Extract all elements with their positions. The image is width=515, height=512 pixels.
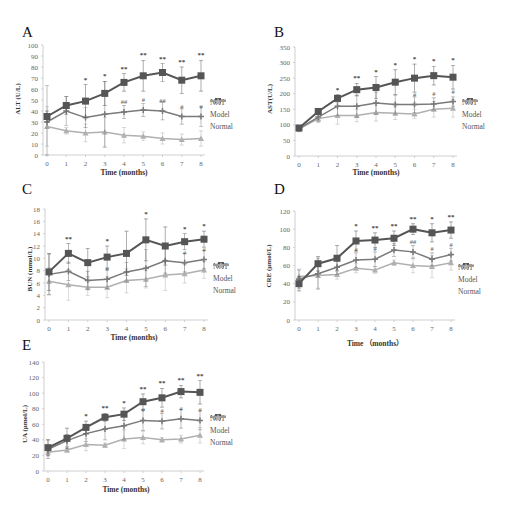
x-tick-label: 0 bbox=[47, 325, 51, 333]
x-tick-label: 4 bbox=[122, 476, 126, 484]
y-tick-label: 20 bbox=[31, 130, 39, 138]
significance-marker: ** bbox=[140, 51, 148, 59]
y-tick-label: 50 bbox=[283, 137, 291, 145]
significance-marker: ** bbox=[391, 222, 399, 230]
y-tick-label: 4 bbox=[37, 292, 41, 300]
y-tick-label: 12 bbox=[33, 243, 41, 251]
x-tick-label: 7 bbox=[180, 160, 184, 168]
y-tick-label: 80 bbox=[31, 64, 39, 72]
x-tick-label: 1 bbox=[65, 160, 69, 168]
chart-plot: 0102030405060708090100012345678*********… bbox=[0, 0, 260, 175]
y-tick-label: 6 bbox=[37, 280, 41, 288]
x-tick-label: 1 bbox=[317, 161, 321, 169]
x-tick-label: 2 bbox=[86, 325, 90, 333]
y-tick-label: 10 bbox=[31, 141, 39, 149]
y-tick-label: 2 bbox=[37, 304, 41, 312]
x-tick-label: 4 bbox=[122, 160, 126, 168]
legend-label: Model bbox=[458, 275, 478, 284]
significance-marker: ** bbox=[140, 385, 148, 393]
significance-marker: ** bbox=[102, 404, 110, 412]
x-tick-label: 8 bbox=[202, 325, 206, 333]
x-tick-label: 3 bbox=[354, 325, 358, 333]
x-tick-label: 6 bbox=[411, 325, 415, 333]
x-tick-label: 7 bbox=[179, 476, 183, 484]
legend-item-normal: Normal bbox=[210, 120, 233, 132]
normal-marker-icon bbox=[210, 412, 226, 422]
y-tick-label: 90 bbox=[31, 53, 39, 61]
significance-marker: ## bbox=[159, 97, 166, 104]
y-tick-label: 140 bbox=[29, 359, 40, 367]
x-tick-label: 0 bbox=[45, 160, 49, 168]
y-tick-label: 40 bbox=[31, 108, 39, 116]
x-tick-label: 1 bbox=[65, 476, 69, 484]
legend-label: Model bbox=[462, 110, 482, 119]
chart-plot: 020406080100120012345678**********######… bbox=[255, 175, 515, 345]
legend-label: Model bbox=[213, 274, 233, 283]
significance-marker: # bbox=[198, 406, 202, 413]
x-tick-label: 7 bbox=[183, 325, 187, 333]
y-tick-label: 150 bbox=[280, 106, 291, 114]
y-tick-label: 120 bbox=[280, 208, 291, 216]
significance-marker: * bbox=[84, 76, 88, 84]
significance-marker: * bbox=[84, 412, 88, 420]
significance-marker: ** bbox=[197, 372, 205, 380]
y-tick-label: 80 bbox=[283, 244, 291, 252]
significance-marker: # bbox=[449, 241, 453, 248]
significance-marker: ** bbox=[448, 213, 456, 221]
x-tick-label: 8 bbox=[199, 160, 203, 168]
significance-marker: ## bbox=[410, 238, 417, 245]
x-tick-label: 6 bbox=[164, 325, 168, 333]
x-tick-label: 0 bbox=[46, 476, 50, 484]
x-tick-label: 0 bbox=[297, 325, 301, 333]
significance-marker: # bbox=[373, 245, 377, 252]
x-tick-label: 1 bbox=[316, 325, 320, 333]
normal-marker-icon bbox=[458, 261, 474, 271]
y-tick-label: 0 bbox=[36, 468, 40, 476]
x-tick-label: 1 bbox=[67, 325, 71, 333]
x-tick-label: 7 bbox=[432, 161, 436, 169]
legend-label: Normal bbox=[210, 122, 233, 131]
significance-marker: # bbox=[180, 103, 184, 110]
significance-marker: * bbox=[430, 215, 434, 223]
significance-marker: * bbox=[374, 68, 378, 76]
significance-marker: # bbox=[106, 265, 110, 272]
significance-marker: # bbox=[430, 245, 434, 252]
significance-marker: ** bbox=[178, 58, 186, 66]
normal-marker-icon bbox=[462, 96, 478, 106]
y-tick-label: 100 bbox=[280, 226, 291, 234]
legend-item-normal: Normal bbox=[213, 284, 236, 296]
x-tick-label: 4 bbox=[373, 325, 377, 333]
legend-item-model: Model bbox=[210, 108, 233, 120]
y-tick-label: 0 bbox=[287, 317, 291, 325]
x-tick-label: 6 bbox=[161, 160, 165, 168]
legend-label: Normal bbox=[210, 438, 233, 447]
x-tick-label: 5 bbox=[141, 476, 145, 484]
x-tick-label: 5 bbox=[142, 160, 146, 168]
legend-item-normal: Normal bbox=[458, 285, 481, 297]
chart-plot: 050100150200250300350012345678********##… bbox=[255, 0, 515, 175]
legend-label: Model bbox=[210, 426, 230, 435]
significance-marker: ** bbox=[159, 379, 167, 387]
legend-label: Model bbox=[210, 110, 230, 119]
y-tick-label: 100 bbox=[280, 121, 291, 129]
significance-marker: # bbox=[202, 246, 206, 253]
y-tick-label: 200 bbox=[280, 90, 291, 98]
y-tick-label: 60 bbox=[32, 421, 40, 429]
significance-marker: ** bbox=[410, 215, 418, 223]
significance-marker: * bbox=[451, 56, 455, 64]
legend-item-model: Model bbox=[210, 424, 233, 436]
x-axis-label: Time （months） bbox=[340, 337, 410, 348]
y-tick-label: 100 bbox=[28, 42, 39, 50]
y-tick-label: 50 bbox=[31, 97, 39, 105]
x-tick-label: 3 bbox=[105, 325, 109, 333]
y-tick-label: 0 bbox=[37, 317, 41, 325]
legend-item-normal: Normal bbox=[462, 120, 485, 132]
significance-marker: ** bbox=[121, 65, 129, 73]
x-tick-label: 6 bbox=[160, 476, 164, 484]
x-tick-label: 4 bbox=[125, 325, 129, 333]
legend-label: Normal bbox=[458, 287, 481, 296]
significance-marker: ** bbox=[372, 224, 380, 232]
y-tick-label: 20 bbox=[32, 452, 40, 460]
panel-c: C BUN (mmol/L) 024681012141618012345678*… bbox=[0, 175, 260, 345]
significance-marker: * bbox=[413, 55, 417, 63]
